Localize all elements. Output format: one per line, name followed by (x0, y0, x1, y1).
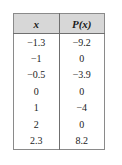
column-header-px: P(x) (59, 14, 105, 34)
cell-px: 0 (59, 50, 105, 66)
table-body: −1.3 −9.2 −1 0 −0.5 −3.9 0 0 1 −4 (14, 34, 105, 150)
table-header-row: x P(x) (14, 14, 105, 34)
cell-px: 0 (59, 116, 105, 132)
cell-px: −3.9 (59, 67, 105, 83)
table-row: 1 −4 (14, 100, 105, 116)
table-row: 2 0 (14, 116, 105, 132)
column-header-x: x (14, 14, 60, 34)
table-row: −1 0 (14, 50, 105, 66)
table-row: −1.3 −9.2 (14, 34, 105, 51)
cell-x: −0.5 (14, 67, 60, 83)
cell-px: 8.2 (59, 132, 105, 149)
table-container: x P(x) −1.3 −9.2 −1 0 −0.5 −3.9 0 (13, 13, 105, 150)
function-value-table: x P(x) −1.3 −9.2 −1 0 −0.5 −3.9 0 (13, 13, 105, 150)
cell-x: 2 (14, 116, 60, 132)
cell-x: 0 (14, 83, 60, 99)
table-row: −0.5 −3.9 (14, 67, 105, 83)
table-row: 0 0 (14, 83, 105, 99)
cell-px: −4 (59, 100, 105, 116)
table-header: x P(x) (14, 14, 105, 34)
page-root: x P(x) −1.3 −9.2 −1 0 −0.5 −3.9 0 (0, 0, 122, 165)
cell-x: −1 (14, 50, 60, 66)
cell-px: 0 (59, 83, 105, 99)
cell-px: −9.2 (59, 34, 105, 51)
cell-x: 1 (14, 100, 60, 116)
cell-x: −1.3 (14, 34, 60, 51)
table-row: 2.3 8.2 (14, 132, 105, 149)
cell-x: 2.3 (14, 132, 60, 149)
